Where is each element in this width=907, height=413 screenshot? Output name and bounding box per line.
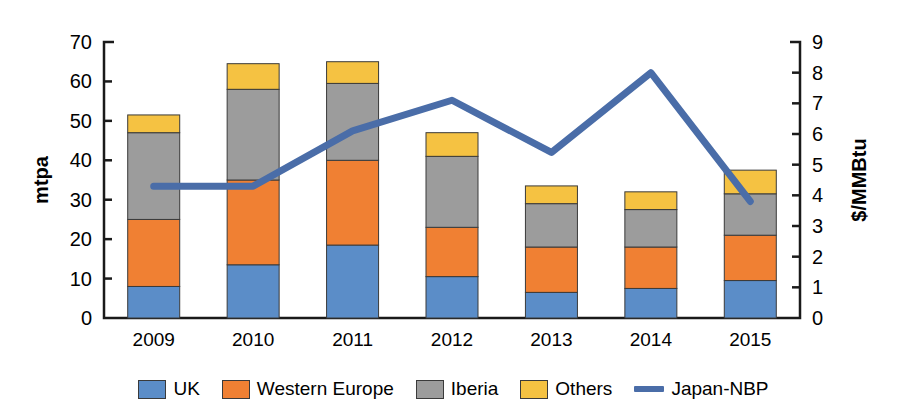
x-axis-tick-label: 2011 — [332, 329, 373, 350]
y-axis-tick-label-right: 7 — [812, 92, 823, 114]
bar-segment[interactable] — [426, 156, 478, 227]
legend-item-others[interactable]: Others — [520, 378, 612, 400]
legend-label-iberia: Iberia — [451, 378, 499, 400]
x-axis-tick-label: 2012 — [431, 329, 473, 350]
bar-segment[interactable] — [128, 219, 180, 286]
y-axis-tick-label-right: 9 — [812, 31, 823, 53]
chart-svg: 0102030405060700123456789mtpa$/MMBtu2009… — [0, 0, 907, 413]
y-axis-tick-label-right: 3 — [812, 215, 823, 237]
bar-segment[interactable] — [426, 227, 478, 276]
y-axis-tick-label-left: 70 — [70, 31, 92, 53]
legend-swatch-others — [520, 380, 548, 399]
legend-item-western-europe[interactable]: Western Europe — [222, 378, 394, 400]
bar-segment[interactable] — [525, 247, 577, 292]
x-axis-tick-label: 2014 — [630, 329, 673, 350]
y-axis-tick-label-right: 8 — [812, 62, 823, 84]
bar-segment[interactable] — [227, 265, 279, 318]
bar-segment[interactable] — [724, 281, 776, 318]
bar-segment[interactable] — [625, 288, 677, 318]
y-axis-tick-label-left: 20 — [70, 228, 92, 250]
legend-item-uk[interactable]: UK — [138, 378, 199, 400]
bar-segment[interactable] — [327, 62, 379, 84]
bar-segment[interactable] — [525, 292, 577, 318]
legend-line-japan-nbp — [634, 386, 664, 392]
y-axis-tick-label-right: 4 — [812, 184, 823, 206]
y-axis-tick-label-right: 1 — [812, 276, 823, 298]
y-axis-tick-label-left: 30 — [70, 189, 92, 211]
y-axis-tick-label-right: 2 — [812, 246, 823, 268]
bar-segment[interactable] — [128, 115, 180, 133]
bar-segment[interactable] — [128, 286, 180, 318]
bar-segment[interactable] — [426, 277, 478, 318]
legend-label-others: Others — [555, 378, 612, 400]
bar-segment[interactable] — [625, 247, 677, 288]
bar-segment[interactable] — [625, 192, 677, 210]
legend-label-japan-nbp: Japan-NBP — [671, 378, 768, 400]
y-axis-tick-label-right: 6 — [812, 123, 823, 145]
y-axis-tick-label-left: 60 — [70, 70, 92, 92]
x-axis-tick-label: 2010 — [232, 329, 274, 350]
legend-swatch-western-europe — [222, 380, 250, 399]
y-axis-tick-label-right: 0 — [812, 307, 823, 329]
bar-segment[interactable] — [227, 89, 279, 180]
bar-segment[interactable] — [227, 64, 279, 90]
legend-label-uk: UK — [173, 378, 199, 400]
bar-segment[interactable] — [327, 245, 379, 318]
legend-item-japan-nbp[interactable]: Japan-NBP — [634, 378, 768, 400]
chart-legend: UK Western Europe Iberia Others Japan-NB… — [0, 372, 907, 406]
y-axis-tick-label-left: 40 — [70, 149, 92, 171]
x-axis-tick-label: 2009 — [133, 329, 175, 350]
bar-segment[interactable] — [525, 186, 577, 204]
bar-segment[interactable] — [327, 160, 379, 245]
chart-plot-area: 0102030405060700123456789mtpa$/MMBtu2009… — [0, 0, 907, 413]
bar-segment[interactable] — [426, 133, 478, 157]
bar-segment[interactable] — [227, 180, 279, 265]
y-axis-tick-label-left: 50 — [70, 110, 92, 132]
bar-segment[interactable] — [128, 133, 180, 220]
y-axis-title-left: mtpa — [30, 155, 52, 204]
y-axis-tick-label-left: 10 — [70, 268, 92, 290]
bar-segment[interactable] — [525, 204, 577, 247]
bar-segment[interactable] — [724, 235, 776, 280]
legend-item-iberia[interactable]: Iberia — [416, 378, 499, 400]
y-axis-tick-label-right: 5 — [812, 154, 823, 176]
x-axis-tick-label: 2013 — [530, 329, 572, 350]
legend-swatch-iberia — [416, 380, 444, 399]
y-axis-title-right: $/MMBtu — [848, 138, 870, 221]
bar-segment[interactable] — [625, 210, 677, 247]
legend-label-western-europe: Western Europe — [257, 378, 394, 400]
legend-swatch-uk — [138, 380, 166, 399]
chart-root: 0102030405060700123456789mtpa$/MMBtu2009… — [0, 0, 907, 413]
x-axis-tick-label: 2015 — [729, 329, 771, 350]
y-axis-tick-label-left: 0 — [81, 307, 92, 329]
